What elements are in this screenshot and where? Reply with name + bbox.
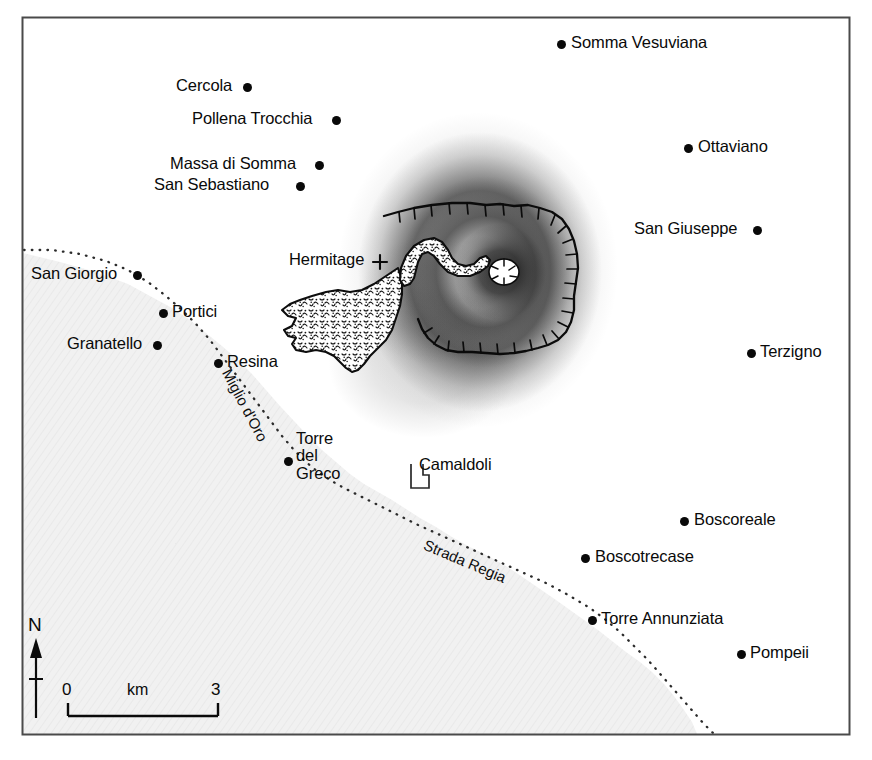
- label-hermitage[interactable]: Hermitage: [289, 251, 364, 268]
- label-somma-vesuviana[interactable]: Somma Vesuviana: [571, 34, 707, 51]
- dot-cercola[interactable]: [243, 83, 252, 92]
- label-boscotrecase[interactable]: Boscotrecase: [595, 548, 694, 565]
- dot-torre-del-greco[interactable]: [284, 457, 293, 466]
- label-cercola[interactable]: Cercola: [176, 77, 232, 94]
- label-torre-del-greco[interactable]: Torre del Greco: [296, 430, 340, 482]
- dot-torre-annunziata[interactable]: [588, 616, 597, 625]
- scale-max-label: 3: [211, 680, 220, 700]
- label-pollena-trocchia[interactable]: Pollena Trocchia: [192, 110, 312, 127]
- dot-terzigno[interactable]: [747, 349, 756, 358]
- dot-san-giuseppe[interactable]: [753, 226, 762, 235]
- label-torre-del-greco-line2: del: [296, 447, 340, 464]
- dot-san-giorgio[interactable]: [133, 271, 142, 280]
- label-torre-del-greco-line3: Greco: [296, 465, 340, 482]
- compass-north-label: N: [28, 614, 42, 636]
- label-san-sebastiano[interactable]: San Sebastiano: [154, 176, 269, 193]
- label-san-giuseppe[interactable]: San Giuseppe: [634, 220, 737, 237]
- dot-resina[interactable]: [214, 359, 223, 368]
- label-ottaviano[interactable]: Ottaviano: [698, 138, 768, 155]
- vesuvius-map: Somma Vesuviana Cercola Pollena Trocchia…: [0, 0, 872, 760]
- dot-pollena-trocchia[interactable]: [332, 116, 341, 125]
- dot-massa-di-somma[interactable]: [315, 161, 324, 170]
- dot-granatello[interactable]: [153, 341, 162, 350]
- dot-boscoreale[interactable]: [680, 517, 689, 526]
- label-boscoreale[interactable]: Boscoreale: [694, 511, 776, 528]
- label-camaldoli[interactable]: Camaldoli: [419, 456, 491, 473]
- dot-somma-vesuviana[interactable]: [557, 40, 566, 49]
- label-torre-del-greco-line1: Torre: [296, 430, 340, 447]
- central-crater-vent: [489, 259, 519, 285]
- scale-unit-label: km: [127, 681, 148, 699]
- label-terzigno[interactable]: Terzigno: [760, 343, 822, 360]
- map-canvas: [0, 0, 872, 760]
- label-torre-annunziata[interactable]: Torre Annunziata: [601, 610, 723, 627]
- label-pompeii[interactable]: Pompeii: [750, 644, 809, 661]
- dot-boscotrecase[interactable]: [581, 554, 590, 563]
- scale-min-label: 0: [62, 680, 71, 700]
- label-massa-di-somma[interactable]: Massa di Somma: [170, 155, 296, 172]
- label-portici[interactable]: Portici: [172, 303, 217, 320]
- dot-ottaviano[interactable]: [684, 144, 693, 153]
- dot-san-sebastiano[interactable]: [296, 182, 305, 191]
- label-granatello[interactable]: Granatello: [67, 335, 142, 352]
- dot-portici[interactable]: [159, 309, 168, 318]
- dot-pompeii[interactable]: [737, 650, 746, 659]
- label-san-giorgio[interactable]: San Giorgio: [31, 265, 117, 282]
